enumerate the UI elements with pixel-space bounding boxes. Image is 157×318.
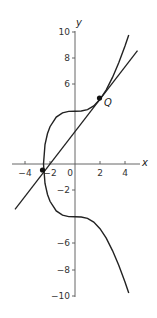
y-axis-label: y: [75, 17, 83, 28]
y-tick-label: 10: [59, 27, 71, 37]
x-tick-label: 4: [122, 168, 128, 178]
point-q: [97, 95, 102, 100]
x-tick-label: 2: [97, 168, 103, 178]
point-q-label: Q: [104, 97, 112, 108]
y-tick-label: 6: [64, 79, 70, 89]
x-tick-label: 0: [67, 168, 73, 178]
y-tick-label: −8: [57, 265, 71, 275]
x-tick-label: −4: [18, 168, 32, 178]
tangent-line: [15, 51, 138, 210]
y-tick-label: −6: [57, 238, 71, 248]
y-tick-label: −10: [51, 291, 70, 301]
y-tick-label: 8: [64, 53, 70, 63]
point-intersection: [40, 167, 45, 172]
chart-plot: −4 −2 0 2 4 10 8 6 −2 −6 −8 −10 x y: [0, 0, 157, 318]
curve-upper-branch: [44, 35, 129, 164]
y-tick-label: −2: [57, 185, 70, 195]
x-axis-label: x: [141, 157, 148, 168]
chart: −4 −2 0 2 4 10 8 6 −2 −6 −8 −10 x y: [0, 0, 157, 318]
